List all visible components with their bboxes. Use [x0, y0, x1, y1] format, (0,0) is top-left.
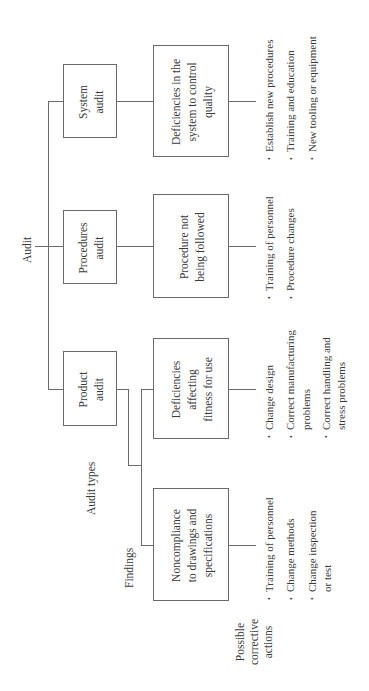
product-audit-connector [48, 389, 63, 390]
fitness-actions-list: •Change design •Correct manufacturingpro… [262, 330, 348, 438]
action-text: Procedure changes [284, 208, 296, 291]
action-item: •Training of personnel [262, 497, 277, 600]
system-audit-line1: System [75, 85, 91, 119]
fitness-finding-line1: Deficiencies [168, 361, 184, 418]
system-finding-line2: system to control [184, 62, 200, 141]
system-actions-list: •Establish new procedures •Training and … [262, 36, 320, 160]
system-finding-line1: Deficiencies in the [168, 59, 184, 145]
system-finding-to-actions [228, 101, 256, 102]
bullet-icon: • [263, 291, 277, 299]
system-finding-line3: quality [200, 86, 216, 118]
bullet-icon: • [285, 152, 299, 160]
corrective-actions-label: Possible corrective actions [233, 612, 275, 672]
procedure-finding-to-actions [228, 246, 256, 247]
noncompliance-actions-list: •Training of personnel •Change methods •… [262, 497, 334, 600]
product-audit-line2: audit [91, 378, 107, 401]
fitness-finding-box: Deficiencies affecting fitness for use [153, 338, 229, 439]
procedures-audit-line1: Procedures [75, 222, 91, 273]
bullet-icon: • [285, 592, 299, 600]
action-text: Change methods [284, 518, 296, 592]
action-text: Training of personnel [263, 497, 275, 592]
action-text: Change inspection [306, 510, 318, 592]
procedures-audit-line2: audit [91, 237, 107, 260]
fitness-finding-line2: affecting [184, 369, 200, 410]
audit-root-text: Audit [21, 237, 33, 263]
procedure-finding-line1: Procedure not [176, 215, 192, 279]
system-to-finding-connector [117, 101, 153, 102]
audit-types-label: Audit types [84, 462, 98, 515]
action-text: New tooling or equipment [306, 36, 318, 152]
system-finding-box: Deficiencies in the system to control qu… [153, 45, 229, 157]
bullet-icon: • [306, 592, 320, 600]
audit-types-text: Audit types [85, 462, 97, 515]
action-item: •Change design [262, 330, 277, 438]
action-text-continued: problems [299, 330, 313, 438]
bullet-icon: • [320, 430, 334, 438]
product-branch-drop [128, 389, 129, 466]
noncompliance-finding-to-actions [228, 545, 256, 546]
system-audit-box: System audit [63, 64, 117, 138]
procedure-actions-list: •Training of personnel •Procedure change… [262, 196, 299, 299]
product-to-fitness-connector [141, 389, 153, 390]
noncompliance-finding-line2: to drawings and [184, 509, 200, 582]
findings-label: Findings [122, 548, 136, 588]
bullet-icon: • [285, 430, 299, 438]
bullet-icon: • [263, 152, 277, 160]
fitness-finding-line3: fitness for use [200, 357, 216, 422]
bullet-icon: • [306, 152, 320, 160]
action-item: •Change inspectionor test [305, 497, 334, 600]
findings-text: Findings [123, 548, 135, 588]
product-findings-spine [141, 389, 142, 546]
bullet-icon: • [263, 592, 277, 600]
action-text: Training of personnel [263, 196, 275, 291]
action-text-continued: or test [320, 497, 334, 600]
product-audit-box: Product audit [63, 351, 117, 426]
action-item: •Training and education [283, 36, 298, 160]
action-text: Change design [263, 365, 275, 430]
bullet-icon: • [263, 430, 277, 438]
fitness-finding-to-actions [228, 389, 256, 390]
system-audit-line2: audit [91, 91, 107, 114]
action-item: •Correct manufacturingproblems [283, 330, 312, 438]
procedures-to-finding-connector [117, 246, 153, 247]
action-item: •Training of personnel [262, 196, 277, 299]
action-text: Training and education [284, 50, 296, 152]
action-item: •Correct handling andstress problems [319, 330, 348, 438]
bullet-icon: • [285, 291, 299, 299]
corrective-actions-line3: actions [261, 612, 275, 672]
system-audit-connector [48, 101, 63, 102]
product-audit-line1: Product [75, 372, 91, 408]
product-to-noncompliance-connector [141, 545, 153, 546]
action-item: •Procedure changes [283, 196, 298, 299]
product-branch-out [117, 389, 128, 390]
noncompliance-finding-line3: specifications [200, 514, 216, 577]
corrective-actions-line2: corrective [247, 612, 261, 672]
noncompliance-finding-line1: Noncompliance [168, 509, 184, 582]
procedures-audit-box: Procedures audit [63, 210, 117, 284]
action-text: Correct manufacturing [284, 330, 296, 430]
action-item: •New tooling or equipment [305, 36, 320, 160]
procedures-audit-connector [48, 246, 63, 247]
product-branch-join [128, 465, 141, 466]
action-text: Correct handling and [320, 337, 332, 430]
procedure-finding-line2: being followed [192, 212, 208, 281]
action-text: Establish new procedures [263, 40, 275, 152]
procedure-finding-box: Procedure not being followed [153, 194, 229, 298]
corrective-actions-line1: Possible [233, 612, 247, 672]
action-item: •Establish new procedures [262, 36, 277, 160]
audit-root-label: Audit [20, 237, 34, 263]
noncompliance-finding-box: Noncompliance to drawings and specificat… [153, 488, 229, 601]
action-item: •Change methods [283, 497, 298, 600]
action-text-continued: stress problems [334, 330, 348, 438]
